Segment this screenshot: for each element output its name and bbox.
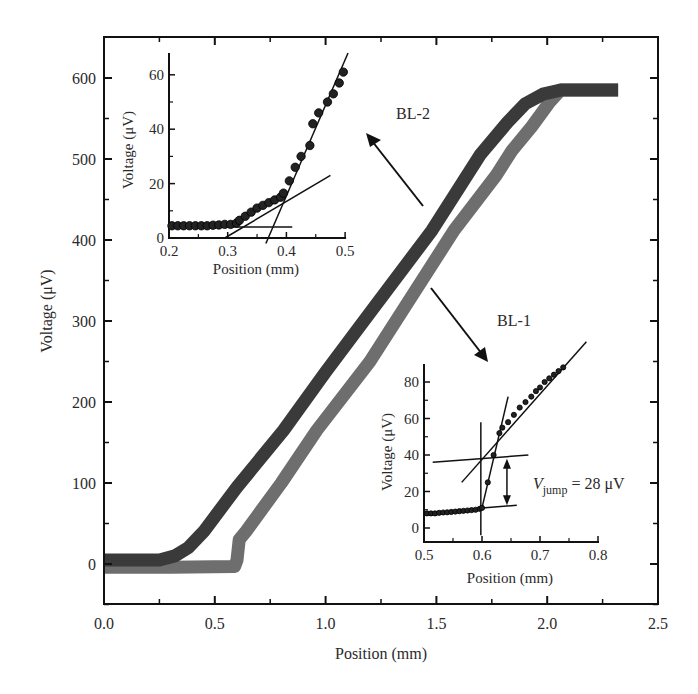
inset-data-point bbox=[491, 452, 496, 457]
inset-data-point bbox=[556, 368, 561, 373]
inset-data-point bbox=[537, 385, 542, 390]
inset-data-point bbox=[542, 379, 547, 384]
y-tick-label: 200 bbox=[72, 394, 96, 411]
bl1-annotation: BL-1 bbox=[497, 312, 531, 329]
inset-x-tick-label: 0.5 bbox=[415, 547, 434, 563]
main-y-axis-label: Voltage (μV) bbox=[38, 269, 56, 352]
y-tick-label: 300 bbox=[72, 313, 96, 330]
inset-data-point bbox=[306, 141, 314, 149]
inset-data-point bbox=[561, 365, 566, 370]
inset-data-point bbox=[339, 68, 347, 76]
inset-y-tick-label: 0 bbox=[412, 520, 420, 536]
inset-data-point bbox=[547, 376, 552, 381]
inset-bl2-x-axis-label: Position (mm) bbox=[213, 261, 299, 278]
y-tick-label: 0 bbox=[88, 556, 96, 573]
inset-x-tick-label: 0.7 bbox=[531, 547, 550, 563]
inset-x-tick-label: 0.3 bbox=[218, 243, 237, 259]
inset-data-point bbox=[511, 412, 516, 417]
vjump-subscript: jump bbox=[542, 483, 568, 497]
inset-data-point bbox=[517, 405, 522, 410]
chart-canvas: 0.00.51.01.52.02.50100200300400500600 Po… bbox=[0, 0, 698, 694]
vjump-arrow-head-down bbox=[503, 495, 511, 505]
y-tick-label: 600 bbox=[72, 70, 96, 87]
x-tick-label: 1.5 bbox=[426, 615, 446, 632]
inset-bl1-x-axis-label: Position (mm) bbox=[467, 570, 553, 587]
inset-data-point bbox=[506, 420, 511, 425]
inset-data-point bbox=[279, 189, 287, 197]
figure: 0.00.51.01.52.02.50100200300400500600 Po… bbox=[0, 0, 698, 694]
vjump-arrow-head-up bbox=[503, 459, 511, 469]
main-axes-frame bbox=[104, 37, 658, 604]
inset-data-point bbox=[479, 505, 484, 510]
inset-data-point bbox=[314, 109, 322, 117]
x-tick-label: 2.0 bbox=[537, 615, 557, 632]
bl1-arrow-icon bbox=[431, 288, 488, 362]
inset-y-tick-label: 60 bbox=[149, 67, 164, 83]
inset-x-tick-label: 0.4 bbox=[277, 243, 296, 259]
inset-data-point bbox=[551, 372, 556, 377]
inset-y-tick-label: 20 bbox=[149, 176, 164, 192]
y-tick-label: 500 bbox=[72, 151, 96, 168]
inset-data-point bbox=[497, 431, 502, 436]
x-tick-label: 0.5 bbox=[205, 615, 225, 632]
inset-bl2-plot: 0.20.30.40.50204060 bbox=[149, 53, 354, 259]
x-tick-label: 1.0 bbox=[316, 615, 336, 632]
inset-y-tick-label: 40 bbox=[149, 121, 164, 137]
inset-bl1-plot: 0.50.60.70.8020406080 bbox=[404, 342, 607, 563]
main-frame-rect bbox=[104, 37, 658, 604]
inset-fit-line bbox=[482, 397, 508, 508]
inset-data-point bbox=[285, 177, 293, 185]
inset-x-tick-label: 0.5 bbox=[336, 243, 355, 259]
x-tick-label: 2.5 bbox=[648, 615, 668, 632]
inset-bl1-y-axis-label: Voltage (μV) bbox=[379, 413, 396, 491]
inset-data-point bbox=[291, 163, 299, 171]
inset-data-point bbox=[529, 394, 534, 399]
vjump-value: = 28 μV bbox=[567, 475, 625, 493]
inset-x-tick-label: 0.6 bbox=[473, 547, 492, 563]
inset-y-tick-label: 80 bbox=[404, 374, 419, 390]
y-tick-label: 400 bbox=[72, 232, 96, 249]
inset-y-tick-label: 40 bbox=[404, 447, 419, 463]
inset-data-point bbox=[523, 399, 528, 404]
inset-y-tick-label: 60 bbox=[404, 411, 419, 427]
bl2-arrow-icon bbox=[366, 133, 423, 206]
inset-data-point bbox=[323, 98, 331, 106]
inset-bl2-y-axis-label: Voltage (μV) bbox=[120, 111, 137, 189]
inset-fit-line bbox=[462, 342, 587, 483]
main-curves bbox=[104, 90, 618, 567]
inset-data-point bbox=[500, 425, 505, 430]
inset-fit-line bbox=[482, 505, 517, 508]
main-x-axis-label: Position (mm) bbox=[335, 645, 427, 663]
y-tick-label: 100 bbox=[72, 475, 96, 492]
inset-y-tick-label: 0 bbox=[157, 230, 165, 246]
x-tick-label: 0.0 bbox=[94, 615, 114, 632]
inset-fit-line bbox=[225, 175, 331, 238]
inset-x-tick-label: 0.8 bbox=[589, 547, 608, 563]
inset-data-point bbox=[485, 480, 490, 485]
inset-data-point bbox=[297, 152, 305, 160]
vjump-annotation: Vjump = 28 μV bbox=[533, 475, 625, 497]
bl2-annotation: BL-2 bbox=[396, 105, 430, 122]
inset-data-point bbox=[309, 120, 317, 128]
inset-data-point bbox=[329, 90, 337, 98]
inset-data-point bbox=[335, 79, 343, 87]
vjump-double-arrow-icon bbox=[503, 459, 511, 506]
inset-y-tick-label: 20 bbox=[404, 484, 419, 500]
